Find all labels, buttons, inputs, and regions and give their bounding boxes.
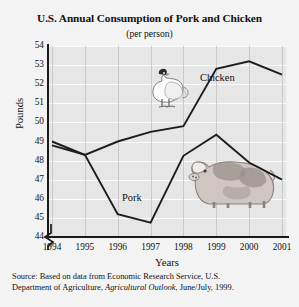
series-label-chicken: Chicken bbox=[200, 72, 235, 83]
y-axis-label: Pounds bbox=[14, 98, 25, 129]
y-tick-46: 46 bbox=[14, 194, 44, 203]
chart-subtitle: (per person) bbox=[0, 28, 299, 39]
y-tick-45: 45 bbox=[14, 213, 44, 222]
source-publication: Agricultural Outlook bbox=[105, 283, 175, 292]
y-tick-44: 44 bbox=[14, 232, 44, 241]
chart-title: U.S. Annual Consumption of Pork and Chic… bbox=[0, 12, 299, 25]
chart-figure: U.S. Annual Consumption of Pork and Chic… bbox=[0, 0, 299, 307]
y-tick-53: 53 bbox=[14, 60, 44, 69]
y-tick-54: 54 bbox=[14, 41, 44, 50]
series-line-pork bbox=[52, 135, 282, 223]
y-tick-49: 49 bbox=[14, 137, 44, 146]
source-line-1: Source: Based on data from Economic Rese… bbox=[12, 272, 220, 281]
series-line-chicken bbox=[52, 61, 282, 155]
y-tick-48: 48 bbox=[14, 156, 44, 165]
x-tick-2001: 2001 bbox=[262, 242, 299, 252]
series-label-pork: Pork bbox=[122, 192, 142, 203]
y-tick-52: 52 bbox=[14, 79, 44, 88]
source-line-2-suffix: , June/July, 1999. bbox=[176, 283, 234, 292]
plot-wrapper: 4445464748495051525354 19941995199619971… bbox=[48, 46, 286, 237]
x-axis-label: Years bbox=[48, 256, 286, 268]
source-note: Source: Based on data from Economic Rese… bbox=[12, 272, 290, 293]
series-lines bbox=[48, 46, 286, 237]
source-line-2-prefix: Department of Agriculture, bbox=[12, 283, 105, 292]
y-tick-47: 47 bbox=[14, 175, 44, 184]
